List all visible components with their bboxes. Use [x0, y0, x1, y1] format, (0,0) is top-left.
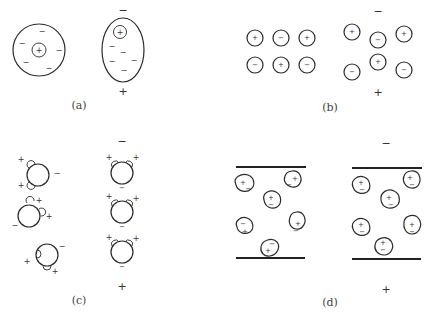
dipole-plus: +: [133, 234, 140, 243]
polar-molecule: + + −: [24, 242, 66, 276]
dipole-plus: +: [18, 181, 25, 190]
ion-plus: +: [252, 34, 258, 42]
panel-a: + − − − − − − + − − − − − + (a): [13, 4, 144, 112]
grains-no-field: + − + − + − − + + −: [235, 167, 306, 258]
field-negative-symbol: −: [118, 4, 127, 17]
grain: + −: [264, 191, 281, 209]
polar-molecule: + + −: [106, 153, 140, 193]
grain: + −: [284, 171, 301, 189]
atom-with-field: − + − − − − − +: [102, 4, 144, 98]
polar-molecule: + + −: [106, 192, 140, 232]
grain: + −: [289, 212, 305, 235]
field-positive-symbol: +: [118, 85, 127, 98]
ion-minus: −: [349, 68, 355, 76]
dipole-plus: +: [24, 257, 31, 266]
charge-minus: −: [286, 181, 292, 189]
polar-molecule: + + −: [106, 233, 140, 272]
grain: − +: [261, 240, 279, 257]
charge-minus: −: [293, 227, 299, 235]
grain: + −: [352, 177, 369, 194]
ion-lattice-no-field: + − + − + −: [247, 30, 315, 73]
dipole-minus: −: [59, 242, 66, 251]
dipole-plus: +: [46, 212, 53, 221]
dipoles-with-field: − + + − + + − + +: [106, 135, 140, 293]
ion-plus: +: [278, 61, 284, 69]
polarization-diagram: + − − − − − − + − − − − − + (a) + −: [0, 0, 430, 315]
dipole-plus: +: [106, 233, 113, 242]
charge-plus: +: [292, 175, 298, 183]
charge-minus: −: [409, 181, 415, 189]
ion-minus: −: [304, 61, 310, 69]
charge-minus: −: [359, 186, 365, 194]
dipole-plus: +: [133, 153, 140, 162]
dipole-plus: +: [36, 196, 43, 205]
grain: + −: [404, 215, 421, 236]
dipoles-no-field: + + − + + − + + −: [12, 155, 66, 276]
caption-d: (d): [322, 296, 338, 309]
charge-minus: −: [409, 228, 415, 236]
grain: − +: [236, 218, 253, 236]
dipole-plus: +: [106, 153, 113, 162]
caption-c: (c): [72, 294, 87, 307]
nucleus-plus: +: [117, 28, 124, 37]
field-positive-symbol: +: [381, 283, 390, 296]
dipole-plus: +: [133, 194, 140, 203]
ion-plus: +: [304, 34, 310, 42]
electron-minus: −: [19, 39, 26, 48]
field-positive-symbol: +: [373, 86, 382, 99]
charge-minus: −: [240, 220, 246, 228]
field-negative-symbol: −: [373, 5, 382, 18]
electron-minus: −: [56, 46, 63, 55]
ion-lattice-with-field: − + − + − + − +: [344, 5, 412, 99]
panel-d: − + − + − + − − +: [235, 137, 422, 309]
electron-minus: −: [131, 56, 138, 65]
dipole-plus: +: [106, 192, 113, 201]
electron-minus: −: [121, 66, 128, 75]
dipole-minus: −: [119, 263, 125, 271]
dipole-minus: −: [119, 184, 125, 192]
ion-plus: +: [401, 30, 407, 38]
charge-minus: −: [380, 246, 386, 254]
field-positive-symbol: +: [117, 280, 126, 293]
dipole-plus: +: [18, 155, 25, 164]
charge-minus: −: [359, 228, 365, 236]
ion-minus: −: [401, 66, 407, 74]
grain: + −: [375, 238, 393, 255]
ion-plus: +: [349, 28, 355, 36]
charge-plus: +: [242, 228, 248, 236]
electron-minus: −: [109, 57, 116, 66]
grain: + −: [403, 171, 420, 189]
electron-minus: −: [39, 27, 46, 36]
nucleus-plus: +: [36, 46, 43, 55]
grain: + −: [381, 190, 399, 209]
ion-minus: −: [252, 61, 258, 69]
ion-minus: −: [278, 34, 284, 42]
polar-molecule: + + −: [18, 155, 61, 190]
dipole-minus: −: [54, 169, 61, 178]
electron-minus: −: [109, 42, 116, 51]
grain: + −: [352, 219, 369, 236]
ion-minus: −: [375, 36, 381, 44]
dipole-minus: −: [119, 223, 125, 231]
grain: + −: [235, 174, 254, 193]
grains-with-field: + − + − + − + − + −: [352, 168, 422, 259]
electron-minus: −: [23, 58, 30, 67]
charge-minus: −: [268, 201, 274, 209]
polar-molecule: + + −: [12, 196, 53, 230]
charge-minus: −: [245, 185, 251, 193]
dipole-minus: −: [12, 221, 19, 230]
field-negative-symbol: −: [117, 135, 126, 148]
dipole-plus: +: [52, 267, 59, 276]
caption-a: (a): [71, 99, 86, 112]
field-negative-symbol: −: [381, 137, 390, 150]
electron-minus: −: [120, 48, 127, 57]
atom-no-field: + − − − − −: [13, 24, 65, 76]
electron-minus: −: [46, 64, 53, 73]
charge-minus: −: [388, 201, 394, 209]
panel-b: + − + − + − − + − + − + − +: [247, 5, 412, 114]
panel-c: + + − + + − + + −: [12, 135, 140, 307]
ion-plus: +: [375, 58, 381, 66]
caption-b: (b): [322, 101, 338, 114]
charge-plus: +: [265, 247, 271, 255]
